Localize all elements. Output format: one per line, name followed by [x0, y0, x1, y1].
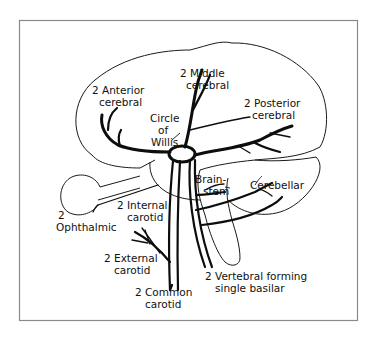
external-carotid-branch-3 [142, 228, 160, 253]
cerebellar-artery-lower [202, 197, 282, 225]
brainstem-front-outline [150, 162, 200, 200]
svg-text:Ophthalmic: Ophthalmic [56, 221, 117, 233]
label-common-carotid: 2 Common carotid [135, 286, 192, 310]
svg-text:2 Internal: 2 Internal [117, 199, 168, 211]
cerebral-arteries-diagram: 2 Anterior cerebral 2 Middle cerebral 2 … [0, 0, 381, 343]
svg-text:2 External: 2 External [104, 252, 158, 264]
temporal-lobe-outline [92, 155, 155, 168]
svg-text:cerebral: cerebral [252, 109, 295, 121]
svg-text:Cerebellar: Cerebellar [250, 179, 305, 191]
svg-text:cerebral: cerebral [99, 96, 142, 108]
anterior-cerebral-branch-2 [119, 130, 121, 146]
label-brainstem: Brain- stem [195, 173, 229, 197]
label-posterior-cerebral: 2 Posterior cerebral [244, 97, 301, 121]
label-middle-cerebral: 2 Middle cerebral [180, 67, 229, 91]
posterior-cerebral-branch-3 [240, 147, 250, 153]
svg-text:2 Vertebral forming: 2 Vertebral forming [205, 270, 307, 282]
svg-text:2 Posterior: 2 Posterior [244, 97, 301, 109]
svg-text:2 Common: 2 Common [135, 286, 192, 298]
label-anterior-cerebral: 2 Anterior cerebral [92, 84, 145, 108]
label-ophthalmic: 2 Ophthalmic [56, 209, 117, 233]
svg-text:2 Middle: 2 Middle [180, 67, 225, 79]
svg-text:Willis: Willis [151, 136, 178, 148]
posterior-cerebral-branch-1 [255, 143, 280, 152]
anterior-cerebral-branch-1 [108, 108, 117, 130]
label-vertebral: 2 Vertebral forming single basilar [205, 270, 307, 294]
label-circle-of-willis: Circle of Willis [150, 112, 180, 148]
internal-carotid-right [178, 161, 180, 290]
svg-text:Brain-: Brain- [195, 173, 227, 185]
middle-cerebral-branch-2 [190, 117, 250, 130]
external-carotid-branch-2 [132, 240, 148, 243]
ophthalmic-branch [93, 205, 98, 212]
svg-text:stem: stem [203, 185, 229, 197]
svg-text:2: 2 [58, 209, 65, 221]
svg-text:single basilar: single basilar [215, 282, 285, 294]
svg-text:Circle: Circle [150, 112, 180, 124]
svg-text:carotid: carotid [114, 264, 150, 276]
svg-text:2 Anterior: 2 Anterior [92, 84, 145, 96]
svg-text:carotid: carotid [127, 211, 163, 223]
circle-of-willis-ring [169, 146, 195, 162]
label-internal-carotid: 2 Internal carotid [117, 199, 168, 223]
optic-stalk-upper [100, 176, 140, 187]
svg-text:carotid: carotid [145, 298, 181, 310]
label-cerebellar: Cerebellar [250, 179, 305, 191]
svg-text:of: of [158, 124, 168, 136]
label-external-carotid: 2 External carotid [104, 252, 158, 276]
svg-text:cerebral: cerebral [186, 79, 229, 91]
internal-carotid-left [169, 161, 173, 290]
